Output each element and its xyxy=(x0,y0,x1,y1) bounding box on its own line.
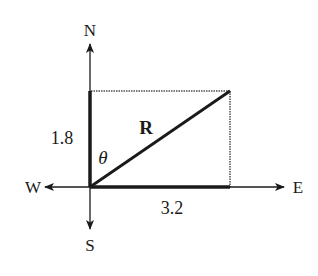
vector-diagram: N S W E 1.8 3.2 R θ xyxy=(0,0,318,276)
resultant-label: R xyxy=(139,117,153,138)
vertical-component-label: 1.8 xyxy=(51,128,74,148)
north-label: N xyxy=(84,21,96,40)
resultant-vector xyxy=(90,91,230,187)
horizontal-component-label: 3.2 xyxy=(161,198,184,218)
west-label: W xyxy=(25,178,42,197)
east-label: E xyxy=(293,178,303,197)
south-label: S xyxy=(85,236,94,255)
angle-theta-label: θ xyxy=(98,147,107,168)
